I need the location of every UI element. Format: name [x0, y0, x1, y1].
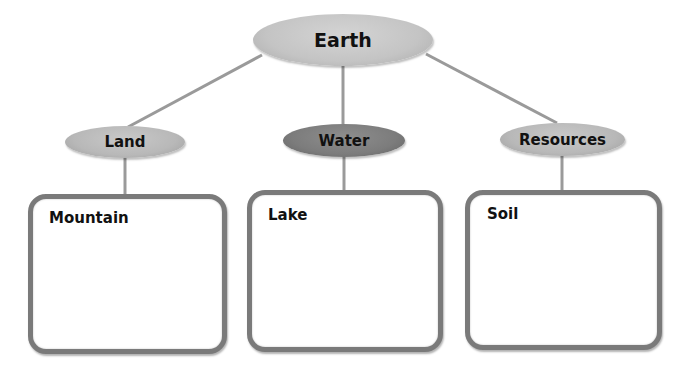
- example-box-soil: Soil: [465, 190, 662, 350]
- category-node-land: Land: [65, 126, 185, 158]
- example-box-lake: Lake: [247, 190, 443, 352]
- example-box-label: Lake: [268, 206, 307, 224]
- category-node-label: Land: [104, 133, 145, 151]
- connector-earth-land: [128, 55, 262, 127]
- example-box-label: Soil: [487, 205, 518, 223]
- example-box-label: Mountain: [49, 209, 129, 227]
- category-node-water: Water: [283, 124, 405, 157]
- category-node-label: Resources: [519, 131, 606, 149]
- category-node-label: Water: [319, 132, 370, 150]
- root-node-label: Earth: [314, 29, 372, 51]
- connector-earth-resources: [426, 54, 557, 123]
- example-box-mountain: Mountain: [28, 194, 227, 354]
- root-node-earth: Earth: [253, 14, 433, 66]
- category-node-resources: Resources: [500, 123, 625, 156]
